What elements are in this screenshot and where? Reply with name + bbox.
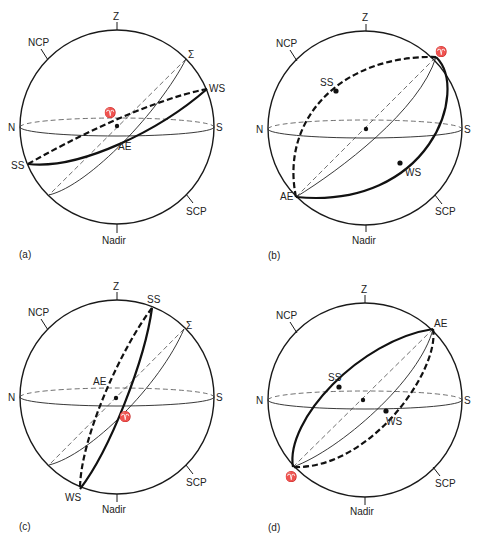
panel-a: Z NCP Σ WS ♈ N S AE SS SCP Nadir (a): [8, 11, 225, 260]
south-label: S: [464, 395, 471, 406]
ae-label: AE: [118, 141, 132, 152]
panel-d: Z NCP AE SS N S WS ♈ SCP Nadir (d): [256, 284, 471, 533]
ws-dot: [383, 408, 388, 413]
ss-label: SS: [320, 77, 334, 88]
scp-label: SCP: [186, 206, 207, 217]
panel-c: Z NCP SS Σ AE N S ♈ SCP WS Nadir (c): [8, 281, 223, 532]
scp-tick: [186, 465, 193, 474]
ss-dot: [336, 384, 341, 389]
panel-b: Z NCP ♈ SS N S WS AE SCP Nadir (b): [256, 12, 471, 261]
horizon-back-arc: [20, 388, 214, 397]
panel-caption: (a): [19, 249, 31, 260]
ae-label: AE: [93, 376, 107, 387]
observer-dot: [114, 396, 118, 400]
north-label: N: [8, 392, 15, 403]
observer-dot: [361, 398, 365, 402]
ecliptic-front-arc: [296, 57, 447, 198]
nadir-label: Nadir: [102, 235, 127, 246]
panel-caption: (b): [268, 250, 280, 261]
nadir-label: Nadir: [102, 504, 127, 515]
zenith-label: Z: [113, 281, 119, 292]
panel-caption: (d): [268, 522, 280, 533]
ncp-tick: [41, 319, 48, 330]
zenith-label: Z: [362, 12, 368, 23]
ws-label: WS: [405, 167, 421, 178]
scp-tick: [435, 195, 442, 204]
scp-label: SCP: [186, 477, 207, 488]
ss-label: SS: [147, 294, 161, 305]
ncp-tick: [41, 49, 48, 60]
ws-label: WS: [386, 416, 402, 427]
aries-label: ♈: [119, 410, 131, 423]
horizon-back-arc: [268, 391, 462, 400]
ss-label: SS: [11, 160, 25, 171]
horizon-front-arc: [268, 400, 462, 409]
horizon-front-arc: [20, 127, 214, 136]
aries-label: ♈: [104, 106, 116, 119]
observer-dot: [115, 124, 119, 128]
scp-label: SCP: [435, 206, 456, 217]
panel-caption: (c): [19, 521, 31, 532]
south-label: S: [464, 124, 471, 135]
zenith-label: Z: [113, 11, 119, 22]
ae-label: AE: [434, 318, 448, 329]
nadir-label: Nadir: [350, 506, 375, 517]
ncp-label: NCP: [276, 38, 297, 49]
south-label: S: [216, 122, 223, 133]
ncp-label: NCP: [28, 37, 49, 48]
north-label: N: [8, 122, 15, 133]
aries-label: ♈: [285, 470, 297, 483]
celestial-sphere-figure: Z NCP Σ WS ♈ N S AE SS SCP Nadir (a) Z N…: [0, 0, 481, 536]
ws-dot: [397, 160, 402, 165]
ncp-label: NCP: [276, 310, 297, 321]
nadir-label: Nadir: [352, 235, 377, 246]
ss-label: SS: [328, 372, 342, 383]
zenith-label: Z: [361, 284, 367, 295]
ncp-tick: [290, 50, 297, 61]
ss-dot: [333, 88, 338, 93]
south-label: S: [216, 392, 223, 403]
sigma-label: Σ: [186, 320, 192, 331]
ncp-tick: [290, 322, 297, 333]
north-label: N: [256, 124, 263, 135]
sigma-label: Σ: [188, 49, 194, 60]
ae-label: AE: [280, 191, 294, 202]
scp-tick: [433, 467, 440, 476]
ws-label: WS: [65, 492, 81, 503]
aries-label: ♈: [435, 45, 447, 58]
ncp-label: NCP: [28, 307, 49, 318]
scp-label: SCP: [435, 478, 456, 489]
scp-tick: [186, 194, 193, 203]
ws-label: WS: [209, 83, 225, 94]
north-label: N: [256, 395, 263, 406]
observer-dot: [364, 127, 368, 131]
